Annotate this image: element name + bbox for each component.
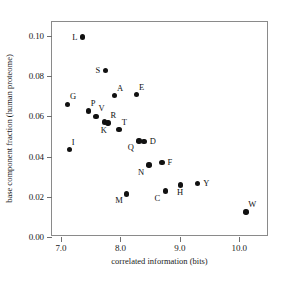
x-tick: 8.0	[120, 237, 121, 242]
data-point	[163, 188, 168, 193]
data-point	[67, 147, 72, 152]
y-tick: 0.04	[47, 157, 52, 158]
y-tick: 0.08	[47, 76, 52, 77]
data-point	[103, 68, 108, 73]
data-point-label: L	[72, 33, 77, 42]
x-tick: 10.0	[239, 237, 240, 242]
data-point-label: T	[122, 118, 127, 127]
data-point-label: I	[72, 138, 75, 147]
data-point-label: K	[101, 126, 107, 135]
data-point-label: W	[248, 200, 256, 209]
scatter-plot-figure: base component fraction (human proteome)…	[0, 0, 285, 285]
x-tick-label: 8.0	[115, 243, 126, 253]
x-tick-label: 7.0	[55, 243, 66, 253]
data-point	[159, 160, 164, 165]
data-point	[80, 34, 85, 39]
data-point-label: E	[139, 83, 144, 92]
data-point-label: A	[117, 84, 123, 93]
data-point	[105, 120, 110, 125]
y-tick-label: 0.08	[29, 71, 44, 81]
data-point	[112, 93, 117, 98]
data-point-label: P	[91, 99, 96, 108]
data-point-label: S	[96, 66, 101, 75]
plot-area: 0.000.020.040.060.080.10 7.08.09.010.0 L…	[51, 21, 268, 236]
y-tick-label: 0.06	[29, 111, 44, 121]
data-point	[146, 162, 151, 167]
data-point-label: Y	[203, 179, 209, 188]
data-point	[195, 181, 200, 186]
y-tick: 0.06	[47, 116, 52, 117]
y-tick-label: 0.00	[29, 232, 44, 242]
x-tick-label: 9.0	[174, 243, 185, 253]
data-point	[93, 114, 98, 119]
data-point-label: G	[70, 92, 76, 101]
data-point	[116, 127, 121, 132]
x-tick: 9.0	[180, 237, 181, 242]
data-point-label: M	[115, 196, 123, 205]
x-tick-label: 10.0	[232, 243, 247, 253]
data-point	[134, 92, 139, 97]
y-tick-label: 0.04	[29, 152, 44, 162]
data-point	[243, 209, 248, 214]
data-point-label: H	[177, 188, 183, 197]
x-tick: 7.0	[61, 237, 62, 242]
data-point	[124, 191, 129, 196]
data-point-label: V	[98, 104, 104, 113]
data-point-label: C	[155, 194, 161, 203]
data-point-label: R	[110, 111, 116, 120]
data-point	[141, 139, 146, 144]
data-point	[86, 108, 91, 113]
y-tick: 0.02	[47, 197, 52, 198]
data-point	[65, 102, 70, 107]
y-tick: 0.10	[47, 36, 52, 37]
y-tick-label: 0.10	[29, 31, 44, 41]
data-point-label: N	[138, 168, 144, 177]
data-point-label: F	[167, 158, 172, 167]
y-tick: 0.00	[47, 237, 52, 238]
data-point-label: D	[150, 137, 156, 146]
data-point-label: Q	[128, 143, 134, 152]
y-tick-label: 0.02	[29, 192, 44, 202]
y-axis-title: base component fraction (human proteome)	[2, 21, 16, 236]
x-axis-title: correlated information (bits)	[51, 256, 268, 266]
